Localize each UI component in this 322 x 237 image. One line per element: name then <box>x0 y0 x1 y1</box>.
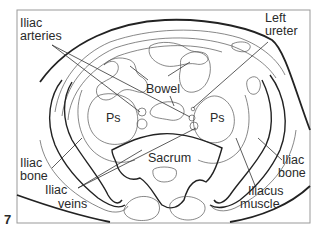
leader-left-ureter <box>193 42 268 108</box>
label-iliac-arteries-line1: Iliac <box>20 16 42 30</box>
label-iliacus-muscle-line2: muscle <box>240 197 280 211</box>
leader-right-iliac-bone <box>258 138 282 160</box>
label-iliac-veins-line2: veins <box>58 197 87 211</box>
label-sacrum: Sacrum <box>148 151 191 165</box>
sacral-canal <box>153 167 177 182</box>
label-left-iliac-bone-line2: bone <box>20 169 48 183</box>
label-bowel: Bowel <box>146 82 180 96</box>
label-right-iliac-bone-line2: bone <box>278 166 306 180</box>
right-iliac-artery <box>189 115 195 121</box>
left-muscle-band <box>78 90 135 162</box>
label-left-iliac-bone-line1: Iliac <box>20 156 42 170</box>
leader-iliac-arteries-2 <box>52 45 190 117</box>
sacroiliac-right-bump <box>170 197 205 221</box>
bowel-small-ellipse <box>247 77 261 95</box>
label-iliac-veins-line1: Iliac <box>45 183 67 197</box>
leader-bowel-2 <box>168 62 190 76</box>
peritoneum-line <box>68 46 222 120</box>
pelvis-diagram: Iliac arteries Left ureter Bowel Ps Ps S… <box>0 0 322 237</box>
left-iliac-artery <box>138 108 146 116</box>
label-left-ureter-line2: ureter <box>265 24 298 38</box>
label-iliacus-muscle-line1: Iliacus <box>248 184 283 198</box>
label-iliac-arteries-line2: arteries <box>20 29 62 43</box>
leader-iliacus-muscle <box>236 138 256 188</box>
label-right-iliac-bone-line1: Iliac <box>282 153 304 167</box>
bowel-loop-right <box>180 52 211 92</box>
left-iliac-vein <box>137 119 147 129</box>
bowel-loop-upper <box>149 42 208 66</box>
bowel-loop-left <box>96 58 147 100</box>
figure-number: 7 <box>4 212 11 227</box>
sacrum <box>112 134 222 208</box>
label-left-ureter-line1: Left <box>265 11 286 25</box>
leader-bowel-1 <box>130 66 148 80</box>
leader-iliac-veins-1 <box>78 150 142 188</box>
label-psoas-left: Ps <box>106 111 121 125</box>
label-psoas-right: Ps <box>210 111 225 125</box>
leader-bowel-3 <box>170 96 174 106</box>
leader-left-iliac-bone <box>52 138 82 168</box>
right-muscle-band <box>198 95 249 163</box>
sacroiliac-left-bump <box>124 196 160 220</box>
